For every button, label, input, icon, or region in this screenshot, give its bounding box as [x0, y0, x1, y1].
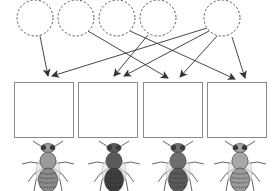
fly-f1-light — [22, 141, 74, 191]
fly-eye-left — [171, 145, 176, 150]
answer-circle-c5[interactable] — [204, 0, 240, 36]
fly-eye-left — [233, 145, 238, 150]
boxes-group — [15, 83, 267, 138]
fly-f3-medium-dark — [152, 141, 204, 191]
fly-eye-left — [41, 145, 46, 150]
answer-circle-c3[interactable] — [99, 0, 135, 36]
fly-thorax — [170, 152, 186, 170]
fly-thorax — [106, 152, 122, 170]
answer-circle-c1[interactable] — [17, 0, 53, 36]
arrows-group — [40, 28, 245, 79]
answer-box-b2[interactable] — [79, 83, 138, 138]
answer-box-b4[interactable] — [208, 83, 267, 138]
fly-eye-right — [116, 145, 121, 150]
fly-eye-left — [107, 145, 112, 150]
fly-eye-right — [180, 145, 185, 150]
arrow-c5-to-b2 — [124, 31, 209, 76]
answer-circle-c4[interactable] — [140, 0, 176, 36]
fly-eye-right — [50, 145, 55, 150]
fly-thorax — [232, 152, 248, 170]
arrow-c1-to-b1 — [40, 36, 48, 76]
circles-group — [17, 0, 240, 36]
arrow-c2-to-b3 — [88, 31, 168, 78]
answer-circle-c2[interactable] — [58, 0, 94, 36]
answer-box-b1[interactable] — [15, 83, 74, 138]
arrow-c5-to-b4 — [232, 37, 245, 78]
fly-f2-dark — [88, 141, 140, 191]
fly-eye-right — [242, 145, 247, 150]
flies-group — [22, 141, 266, 191]
matching-diagram — [0, 0, 274, 191]
fly-f4-light — [214, 141, 266, 191]
answer-box-b3[interactable] — [144, 83, 203, 138]
fly-thorax — [40, 152, 56, 170]
